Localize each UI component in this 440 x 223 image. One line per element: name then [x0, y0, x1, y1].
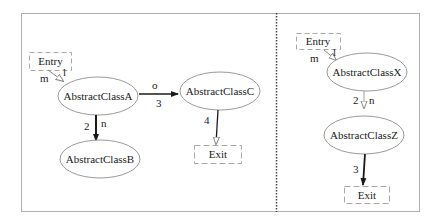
edge-x-to-z: 2 n — [353, 91, 375, 108]
edge-label-4: 4 — [204, 114, 210, 126]
node-abstract-class-c[interactable]: AbstractClassC — [180, 72, 260, 110]
exit-node-right[interactable]: Exit — [345, 187, 390, 204]
edge-label-m: m — [310, 52, 319, 64]
right-panel: Entry m l AbstractClassX 2 n AbstractCla… — [297, 34, 408, 204]
node-abstract-class-z[interactable]: AbstractClassZ — [324, 116, 404, 154]
node-abstract-class-b[interactable]: AbstractClassB — [60, 140, 140, 178]
edge-a-to-b: 2 n — [84, 115, 107, 141]
node-label: AbstractClassX — [332, 66, 401, 78]
node-label: AbstractClassC — [186, 85, 254, 97]
node-label: AbstractClassZ — [330, 129, 398, 141]
exit-label: Exit — [358, 189, 376, 201]
edge-label-2: 2 — [353, 94, 359, 106]
node-label: AbstractClassB — [66, 153, 134, 165]
edge-label-n: n — [101, 117, 107, 129]
edge-label-o: o — [152, 79, 158, 91]
edge-a-to-c: o 3 — [139, 79, 178, 109]
diagram-canvas: Entry m l AbstractClassA o 3 AbstractCla… — [0, 0, 440, 223]
edge-c-to-exit: 4 — [204, 110, 218, 144]
edge-label-3: 3 — [353, 163, 359, 175]
edge-label-l: l — [333, 46, 336, 58]
edge-label-3: 3 — [156, 97, 162, 109]
left-panel: Entry m l AbstractClassA o 3 AbstractCla… — [30, 53, 261, 179]
edge-label-2: 2 — [84, 120, 90, 132]
entry-label: Entry — [306, 35, 331, 47]
edge-z-to-exit: 3 — [353, 154, 365, 185]
exit-label: Exit — [209, 148, 227, 160]
edge-label-m: m — [40, 72, 49, 84]
node-abstract-class-a[interactable]: AbstractClassA — [58, 77, 138, 115]
edge-label-l: l — [63, 66, 66, 78]
exit-node-left[interactable]: Exit — [195, 146, 242, 164]
node-abstract-class-x[interactable]: AbstractClassX — [327, 53, 407, 91]
entry-label: Entry — [38, 55, 63, 67]
node-label: AbstractClassA — [63, 90, 132, 102]
edge-label-n: n — [369, 94, 375, 106]
